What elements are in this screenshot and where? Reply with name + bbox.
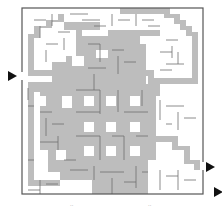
exit-arrow-icon <box>206 162 215 172</box>
exit-arrow-icon-2 <box>214 187 222 197</box>
footer-mark-right: .. <box>148 201 151 207</box>
footer-mark-left: .. <box>70 201 73 207</box>
entry-arrow-icon <box>8 71 17 81</box>
maze-board <box>0 0 222 212</box>
